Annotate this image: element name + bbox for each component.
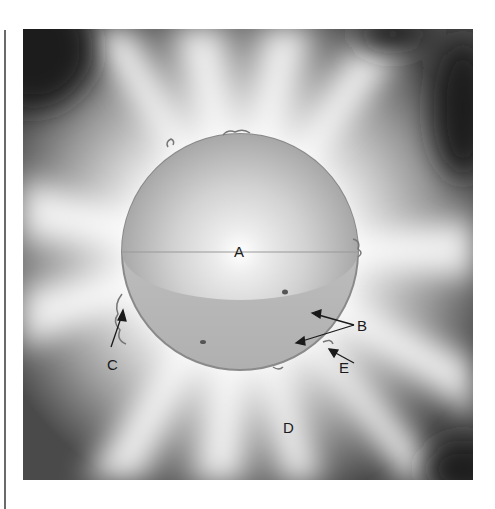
label-b-sunspots: B: [357, 318, 367, 333]
label-c-prominence: C: [107, 357, 118, 372]
sunspot: [200, 340, 206, 344]
sunspot: [282, 290, 288, 295]
label-e-chromosphere: E: [339, 360, 349, 375]
page-margin-rule: [4, 30, 6, 509]
label-a-core: A: [234, 244, 244, 259]
sun-diagram-frame: A B C D E: [23, 29, 473, 480]
label-d-corona: D: [283, 420, 294, 435]
sun-illustration: [23, 29, 473, 480]
